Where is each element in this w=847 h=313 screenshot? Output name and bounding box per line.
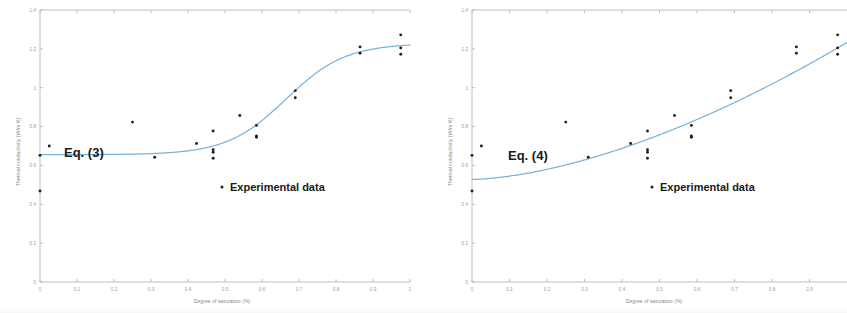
chart-svg-left: 00.10.20.30.40.50.60.70.80.91 00.20.40.6… [0, 0, 424, 313]
x-tick-label: 0.8 [769, 287, 776, 292]
equation-label-right: Eq. (4) [508, 148, 548, 163]
data-point [294, 96, 297, 99]
x-tick-label: 0.7 [731, 287, 738, 292]
data-point [564, 121, 567, 124]
chart-svg-right: 00.10.20.30.40.50.60.70.80.9 00.20.40.60… [424, 0, 847, 313]
y-tick-label: 0.6 [30, 163, 37, 168]
y-tick-label: 0 [33, 280, 36, 285]
y-axis-title-left: Thermal conductivity (W/m·K) [15, 118, 21, 187]
data-point [471, 190, 474, 193]
legend-dot-icon-right [651, 186, 654, 189]
x-tick-label: 0.3 [581, 287, 588, 292]
x-tick-label: 0 [471, 287, 474, 292]
x-tick-label: 0.2 [111, 287, 118, 292]
data-point [255, 124, 258, 127]
equation-label-left: Eq. (3) [64, 145, 104, 160]
y-axis-title-right: Thermal conductivity (W/m·K) [447, 118, 453, 187]
x-tick-label: 0.6 [259, 287, 266, 292]
data-point [399, 33, 402, 36]
data-point [836, 46, 839, 49]
x-tick-label: 0.3 [148, 287, 155, 292]
y-tick-label: 1 [33, 86, 36, 91]
data-point [212, 148, 215, 151]
data-point [795, 52, 798, 55]
x-tick-label: 0.4 [619, 287, 626, 292]
x-axis-title-right: Degree of saturation (%) [626, 298, 683, 304]
data-point [646, 148, 649, 151]
legend-right: Experimental data [651, 181, 756, 193]
data-point [212, 157, 215, 160]
legend-dot-icon-left [221, 186, 224, 189]
y-tick-label: 0 [465, 280, 468, 285]
y-tick-label: 1.4 [462, 8, 469, 13]
y-tick-label: 1.4 [30, 8, 37, 13]
equation-annotation-right: Eq. (4) [508, 148, 548, 163]
chart-panel-right: 00.10.20.30.40.50.60.70.80.9 00.20.40.60… [424, 0, 847, 313]
x-tick-label: 0.7 [296, 287, 303, 292]
data-point [255, 136, 258, 139]
legend-left: Experimental data [221, 181, 326, 193]
x-axis-title-left: Degree of saturation (%) [194, 298, 251, 304]
data-point [212, 151, 215, 154]
data-point [646, 157, 649, 160]
data-point [646, 130, 649, 133]
data-point [359, 52, 362, 55]
legend-label-right: Experimental data [660, 181, 756, 193]
y-tick-label: 1 [465, 86, 468, 91]
x-tick-label: 0.9 [370, 287, 377, 292]
data-point [673, 114, 676, 117]
y-tick-label: 0.4 [462, 202, 469, 207]
x-tick-label: 0.4 [185, 287, 192, 292]
data-point [471, 154, 474, 157]
data-point [131, 121, 134, 124]
y-tick-label: 0.8 [30, 124, 37, 129]
data-point [646, 151, 649, 154]
x-tick-label: 0.8 [333, 287, 340, 292]
data-point [587, 156, 590, 159]
y-tick-label: 0.2 [462, 241, 469, 246]
y-tick-label: 1.2 [30, 47, 37, 52]
x-tick-label: 0.1 [74, 287, 81, 292]
x-tick-label: 1 [409, 287, 412, 292]
data-point [690, 136, 693, 139]
panel-background [424, 0, 847, 313]
data-point [690, 124, 693, 127]
data-point [195, 142, 198, 145]
data-point [39, 190, 42, 193]
data-point [153, 156, 156, 159]
y-tick-label: 0.6 [462, 163, 469, 168]
x-tick-label: 0.6 [694, 287, 701, 292]
chart-panel-left: 00.10.20.30.40.50.60.70.80.91 00.20.40.6… [0, 0, 424, 313]
data-point [836, 53, 839, 56]
data-point [399, 53, 402, 56]
x-tick-label: 0 [39, 287, 42, 292]
data-point [399, 46, 402, 49]
data-point [729, 89, 732, 92]
data-point [238, 114, 241, 117]
equation-annotation-left: Eq. (3) [64, 145, 104, 160]
figure-container: 00.10.20.30.40.50.60.70.80.91 00.20.40.6… [0, 0, 847, 313]
y-tick-label: 0.8 [462, 124, 469, 129]
x-tick-label: 0.1 [506, 287, 513, 292]
data-point [212, 130, 215, 133]
x-tick-label: 0.9 [806, 287, 813, 292]
y-tick-label: 0.2 [30, 241, 37, 246]
y-tick-label: 0.4 [30, 202, 37, 207]
x-tick-label: 0.2 [544, 287, 551, 292]
y-tick-label: 1.2 [462, 47, 469, 52]
x-tick-label: 0.5 [222, 287, 229, 292]
data-point [48, 145, 51, 148]
plot-area-right: 00.10.20.30.40.50.60.70.80.9 00.20.40.60… [424, 0, 847, 313]
data-point [39, 154, 42, 157]
data-point [480, 145, 483, 148]
data-point [795, 45, 798, 48]
data-point [359, 45, 362, 48]
data-point [729, 96, 732, 99]
x-tick-label: 0.5 [656, 287, 663, 292]
data-point [294, 89, 297, 92]
legend-label-left: Experimental data [230, 181, 326, 193]
data-point [836, 33, 839, 36]
data-point [629, 142, 632, 145]
